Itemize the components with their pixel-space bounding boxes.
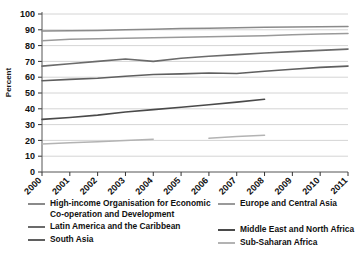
- y-axis-tick-label: 30: [25, 120, 35, 130]
- legend-item-hi-oecd: High-income Organisation for Economic Co…: [28, 198, 214, 219]
- legend-swatch-icon: [218, 203, 235, 205]
- x-axis-tick-label: 2000: [22, 175, 43, 196]
- line-chart-plot: 0102030405060708090100200020012002200320…: [0, 0, 364, 200]
- y-axis-tick-label: 60: [25, 72, 35, 82]
- x-axis-tick-label: 2009: [273, 175, 294, 196]
- x-axis-tick-label: 2001: [50, 175, 71, 196]
- x-axis-tick-label: 2006: [189, 175, 210, 196]
- legend-item-middle-east-north-africa: Middle East and North Africa: [218, 224, 364, 235]
- y-axis-tick-label: 0: [30, 167, 35, 177]
- chart-legend: High-income Organisation for Economic Co…: [0, 198, 364, 262]
- series-line: [42, 66, 348, 81]
- series-line: [209, 135, 265, 138]
- legend-item-europe-central-asia: Europe and Central Asia: [218, 198, 364, 209]
- chart-figure: Percent 01020304050607080901002000200120…: [0, 0, 364, 264]
- legend-item-label: High-income Organisation for Economic Co…: [50, 198, 211, 219]
- y-axis-tick-label: 80: [25, 41, 35, 51]
- series-line: [42, 26, 348, 31]
- legend-item-south-asia: South Asia: [28, 234, 214, 245]
- legend-column-right: Europe and Central Asia Middle East and …: [218, 198, 364, 250]
- x-axis-tick-label: 2011: [329, 175, 350, 196]
- y-axis-tick-label: 100: [20, 9, 35, 19]
- y-axis-tick-label: 10: [25, 151, 35, 161]
- legend-item-label: Sub-Saharan Africa: [240, 237, 317, 248]
- legend-item-sub-saharan-africa: Sub-Saharan Africa: [218, 237, 364, 248]
- x-axis-tick-label: 2003: [106, 175, 127, 196]
- y-axis-tick-label: 20: [25, 136, 35, 146]
- legend-swatch-icon: [28, 226, 45, 228]
- x-axis-tick-label: 2005: [161, 175, 182, 196]
- legend-column-left: High-income Organisation for Economic Co…: [28, 198, 214, 247]
- y-axis-tick-label: 40: [25, 104, 35, 114]
- legend-swatch-icon: [218, 229, 235, 231]
- legend-swatch-icon: [218, 242, 235, 244]
- x-axis-tick-label: 2002: [78, 175, 99, 196]
- x-axis-tick-label: 2004: [133, 175, 154, 196]
- legend-item-label: Latin America and the Caribbean: [50, 221, 180, 232]
- series-line: [42, 34, 348, 41]
- series-line: [42, 49, 348, 66]
- y-axis-tick-label: 90: [25, 25, 35, 35]
- legend-item-latin-america: Latin America and the Caribbean: [28, 221, 214, 232]
- x-axis-tick-label: 2008: [245, 175, 266, 196]
- x-axis-tick-label: 2007: [217, 175, 238, 196]
- legend-swatch-icon: [28, 203, 45, 205]
- legend-item-label: Middle East and North Africa: [240, 224, 354, 235]
- legend-item-label: South Asia: [50, 234, 93, 245]
- series-line: [42, 139, 153, 144]
- y-axis-tick-label: 70: [25, 57, 35, 67]
- legend-item-label: Europe and Central Asia: [240, 198, 337, 209]
- series-line: [42, 99, 265, 119]
- y-axis-tick-label: 50: [25, 88, 35, 98]
- legend-swatch-icon: [28, 239, 45, 241]
- x-axis-tick-label: 2010: [300, 175, 321, 196]
